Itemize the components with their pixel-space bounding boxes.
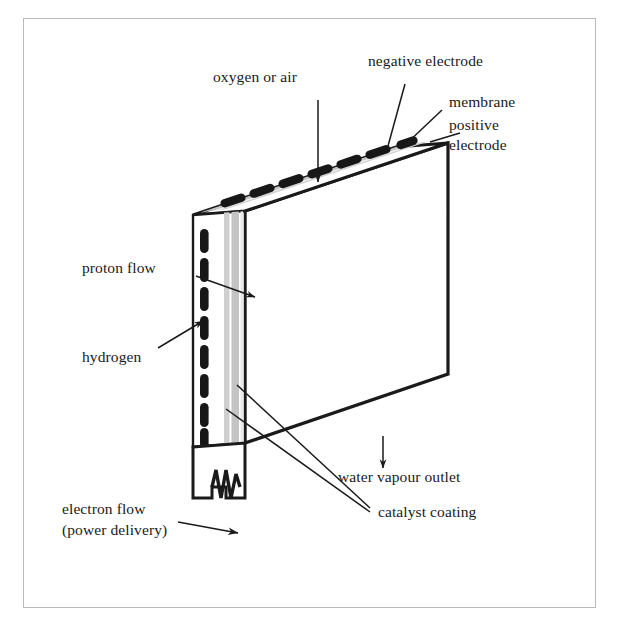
label-negative-electrode: negative electrode <box>368 52 483 70</box>
label-positive-electrode-line1: positive <box>449 116 499 134</box>
label-catalyst-coating: catalyst coating <box>378 503 476 521</box>
label-hydrogen: hydrogen <box>82 348 141 366</box>
label-oxygen-or-air: oxygen or air <box>213 68 297 86</box>
label-electron-flow-line1: electron flow <box>62 500 146 518</box>
label-proton-flow: proton flow <box>82 259 156 277</box>
label-electron-flow-line2: (power delivery) <box>62 521 167 539</box>
leader-negative-electrode <box>388 84 405 146</box>
label-positive-electrode-line2: electrode <box>449 136 507 154</box>
label-membrane: membrane <box>449 93 515 111</box>
leader-electron-flow <box>178 522 238 533</box>
external-circuit-tab <box>193 443 245 498</box>
figure-canvas: oxygen or air negative electrode membran… <box>0 0 618 618</box>
label-water-vapour-outlet: water vapour outlet <box>338 468 460 486</box>
left-face-electrode-dashes <box>200 229 209 448</box>
